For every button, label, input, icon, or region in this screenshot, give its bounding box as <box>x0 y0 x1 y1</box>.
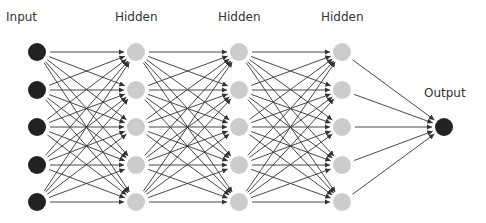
hidden-node <box>127 43 145 61</box>
hidden-node <box>127 193 145 211</box>
connection-arrow <box>47 59 126 119</box>
input-node <box>28 156 46 174</box>
hidden-node <box>333 43 351 61</box>
hidden-node <box>127 118 145 136</box>
connection-arrow <box>250 134 333 194</box>
connection-arrow <box>250 59 333 119</box>
output-node <box>435 118 453 136</box>
hidden-node <box>127 81 145 99</box>
hidden-node <box>230 193 248 211</box>
connection-arrow <box>145 61 231 156</box>
hidden-node <box>230 118 248 136</box>
neural-network-diagram <box>0 0 486 223</box>
connection-arrow <box>352 134 434 194</box>
hidden-node <box>230 81 248 99</box>
hidden-node <box>333 156 351 174</box>
layer-label-input: Input <box>6 10 37 24</box>
hidden-node <box>127 156 145 174</box>
layer-label-hidden: Hidden <box>321 10 364 24</box>
connection-arrow <box>47 98 126 158</box>
layer-label-output: Output <box>424 86 466 100</box>
connection-arrow <box>46 61 129 155</box>
connection-arrow <box>354 131 433 160</box>
layer-label-hidden: Hidden <box>115 10 158 24</box>
input-node <box>28 43 46 61</box>
input-node <box>28 81 46 99</box>
connection-arrow <box>248 99 334 193</box>
layer-label-hidden: Hidden <box>218 10 261 24</box>
connection-arrow <box>250 98 333 158</box>
connection-arrow <box>352 60 434 120</box>
connection-arrow <box>47 134 126 194</box>
connection-arrow <box>147 134 230 194</box>
connection-arrow <box>145 99 231 193</box>
hidden-node <box>333 118 351 136</box>
connection-arrow <box>147 59 230 119</box>
hidden-node <box>333 193 351 211</box>
input-node <box>28 193 46 211</box>
connection-arrow <box>354 94 432 122</box>
connection-arrow <box>147 98 230 158</box>
connection-arrow <box>248 61 334 156</box>
hidden-node <box>230 156 248 174</box>
connection-arrow <box>46 99 128 192</box>
hidden-node <box>333 81 351 99</box>
hidden-node <box>230 43 248 61</box>
input-node <box>28 118 46 136</box>
